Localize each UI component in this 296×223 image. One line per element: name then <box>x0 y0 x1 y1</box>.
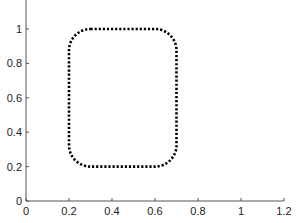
x-tick-label: 0 <box>23 205 29 217</box>
x-tick-label: 0.8 <box>190 205 205 217</box>
x-tick-label: 0.4 <box>104 205 119 217</box>
x-tick-label: 1.2 <box>276 205 291 217</box>
plot-area <box>69 29 177 167</box>
y-tick-label: 0.4 <box>7 126 22 138</box>
x-tick-label: 1 <box>238 205 244 217</box>
y-tick-label: 0.6 <box>7 92 22 104</box>
dotted-rounded-rectangle-series <box>69 29 177 167</box>
axes: 00.20.40.60.811.200.20.40.60.81 <box>7 0 292 217</box>
y-tick-label: 0 <box>16 195 22 207</box>
y-tick-label: 0.2 <box>7 161 22 173</box>
x-tick-label: 0.2 <box>61 205 76 217</box>
chart: 00.20.40.60.811.200.20.40.60.81 <box>0 0 296 223</box>
y-tick-label: 0.8 <box>7 57 22 69</box>
y-tick-label: 1 <box>16 23 22 35</box>
x-tick-label: 0.6 <box>147 205 162 217</box>
